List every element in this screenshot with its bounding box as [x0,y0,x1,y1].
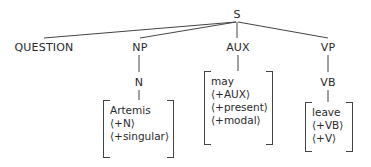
node-question: QUESTION [14,42,73,53]
feature-matrix-leave: leave ⟨+VB⟩ ⟨+V⟩ [305,102,353,152]
feature-matrix-may: may ⟨+AUX⟩ ⟨+present⟩ ⟨+modal⟩ [204,71,273,145]
feature-lexeme: leave [312,106,343,119]
edge-s-np [140,22,236,38]
node-n: N [135,77,143,88]
feature-value: ⟨+modal⟩ [211,114,268,127]
feature-value: ⟨+singular⟩ [110,130,169,143]
feature-lexeme: may [211,75,268,88]
syntax-tree-diagram: S QUESTION NP AUX VP N VB Artemis ⟨+N⟩ ⟨… [0,0,371,167]
feature-value: ⟨+N⟩ [110,117,169,130]
edge-s-question [44,22,236,38]
feature-value: ⟨+V⟩ [312,132,343,145]
node-vp: VP [321,42,336,53]
node-vb: VB [320,77,335,88]
node-np: NP [132,42,147,53]
feature-matrix-artemis: Artemis ⟨+N⟩ ⟨+singular⟩ [103,100,174,158]
feature-value: ⟨+AUX⟩ [211,88,268,101]
edge-s-vp [238,22,328,38]
feature-value: ⟨+VB⟩ [312,119,343,132]
node-s: S [233,9,240,20]
node-aux: AUX [226,42,250,53]
feature-value: ⟨+present⟩ [211,101,268,114]
feature-lexeme: Artemis [110,104,169,117]
